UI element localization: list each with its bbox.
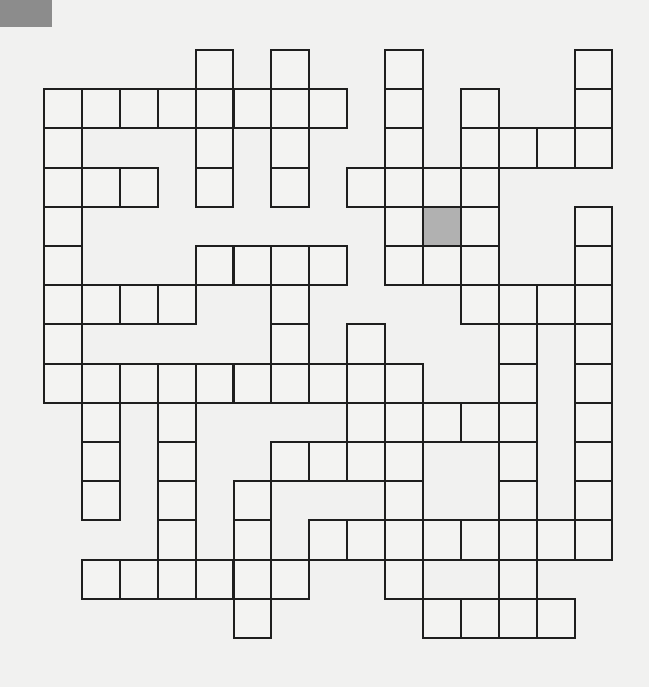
grid-cell[interactable] [498,284,538,325]
grid-cell[interactable] [157,441,197,482]
grid-cell[interactable] [384,480,424,521]
grid-cell[interactable] [422,402,462,443]
grid-cell[interactable] [460,245,500,286]
grid-cell[interactable] [119,167,159,208]
grid-cell[interactable] [498,363,538,404]
grid-cell[interactable] [574,206,614,247]
grid-cell[interactable] [536,598,576,639]
grid-cell[interactable] [270,167,310,208]
grid-cell[interactable] [574,402,614,443]
grid-cell[interactable] [384,206,424,247]
grid-cell[interactable] [43,284,83,325]
grid-cell[interactable] [346,323,386,364]
grid-cell[interactable] [384,402,424,443]
grid-cell[interactable] [460,598,500,639]
grid-cell[interactable] [574,245,614,286]
grid-cell[interactable] [195,167,235,208]
grid-cell[interactable] [346,363,386,404]
grid-cell[interactable] [195,49,235,90]
grid-cell[interactable] [233,559,273,600]
grid-cell[interactable] [233,363,273,404]
grid-cell[interactable] [384,441,424,482]
grid-cell[interactable] [195,559,235,600]
grid-cell[interactable] [498,598,538,639]
grid-cell[interactable] [270,323,310,364]
grid-cell[interactable] [233,598,273,639]
grid-cell[interactable] [270,49,310,90]
grid-cell[interactable] [157,519,197,560]
grid-cell[interactable] [308,245,348,286]
grid-cell[interactable] [460,402,500,443]
grid-cell[interactable] [574,323,614,364]
grid-cell[interactable] [422,245,462,286]
grid-cell[interactable] [270,441,310,482]
grid-cell[interactable] [498,441,538,482]
grid-cell[interactable] [43,88,83,129]
grid-cell[interactable] [574,49,614,90]
grid-cell[interactable] [498,559,538,600]
grid-cell[interactable] [422,167,462,208]
grid-cell[interactable] [460,519,500,560]
grid-cell[interactable] [195,127,235,168]
grid-cell[interactable] [157,363,197,404]
grid-cell[interactable] [498,402,538,443]
grid-cell[interactable] [81,441,121,482]
grid-cell[interactable] [460,167,500,208]
grid-cell[interactable] [574,480,614,521]
grid-cell[interactable] [574,88,614,129]
grid-cell[interactable] [346,167,386,208]
grid-cell[interactable] [574,363,614,404]
grid-cell[interactable] [460,127,500,168]
grid-cell[interactable] [574,127,614,168]
grid-cell[interactable] [81,559,121,600]
shaded-cell[interactable] [422,206,462,247]
grid-cell[interactable] [270,88,310,129]
grid-cell[interactable] [119,363,159,404]
grid-cell[interactable] [460,206,500,247]
grid-cell[interactable] [195,245,235,286]
grid-cell[interactable] [384,127,424,168]
grid-cell[interactable] [195,88,235,129]
grid-cell[interactable] [498,127,538,168]
grid-cell[interactable] [574,519,614,560]
grid-cell[interactable] [43,363,83,404]
grid-cell[interactable] [81,284,121,325]
grid-cell[interactable] [81,88,121,129]
grid-cell[interactable] [308,363,348,404]
grid-cell[interactable] [346,402,386,443]
grid-cell[interactable] [157,402,197,443]
grid-cell[interactable] [119,559,159,600]
grid-cell[interactable] [270,363,310,404]
grid-cell[interactable] [157,559,197,600]
grid-cell[interactable] [270,245,310,286]
grid-cell[interactable] [43,127,83,168]
grid-cell[interactable] [574,284,614,325]
grid-cell[interactable] [536,127,576,168]
grid-cell[interactable] [384,559,424,600]
grid-cell[interactable] [157,88,197,129]
grid-cell[interactable] [384,88,424,129]
grid-cell[interactable] [43,206,83,247]
grid-cell[interactable] [384,167,424,208]
grid-cell[interactable] [43,245,83,286]
grid-cell[interactable] [43,167,83,208]
grid-cell[interactable] [498,480,538,521]
grid-cell[interactable] [384,49,424,90]
grid-cell[interactable] [308,441,348,482]
grid-cell[interactable] [346,441,386,482]
grid-cell[interactable] [157,284,197,325]
grid-cell[interactable] [270,284,310,325]
grid-cell[interactable] [384,245,424,286]
grid-cell[interactable] [384,363,424,404]
grid-cell[interactable] [346,519,386,560]
grid-cell[interactable] [574,441,614,482]
grid-cell[interactable] [119,88,159,129]
grid-cell[interactable] [308,88,348,129]
grid-cell[interactable] [81,363,121,404]
grid-cell[interactable] [498,519,538,560]
grid-cell[interactable] [422,519,462,560]
grid-cell[interactable] [270,559,310,600]
grid-cell[interactable] [498,323,538,364]
grid-cell[interactable] [536,519,576,560]
grid-cell[interactable] [43,323,83,364]
